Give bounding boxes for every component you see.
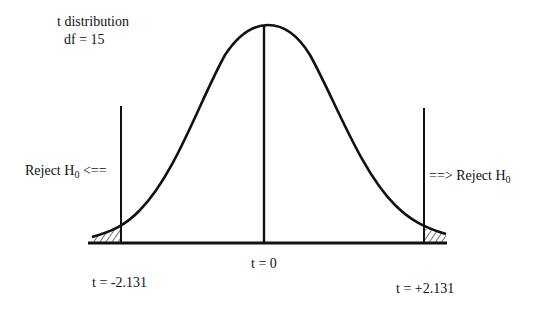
center-value-label: t = 0: [251, 256, 277, 272]
df-label: df = 15: [64, 32, 105, 48]
reject-left-arrow: <==: [79, 163, 106, 178]
left-critical-value-label: t = -2.131: [92, 275, 147, 291]
reject-right-text: Reject H: [456, 168, 505, 183]
reject-right-subscript: 0: [506, 174, 511, 185]
density-curve: [92, 25, 446, 237]
t-distribution-diagram: t distribution df = 15 Reject H0 <== ==>…: [0, 0, 550, 310]
reject-left-text: Reject H: [25, 163, 74, 178]
right-critical-value-label: t = +2.131: [396, 281, 454, 297]
reject-right-label: ==> Reject H0: [429, 168, 511, 185]
reject-left-label: Reject H0 <==: [25, 163, 107, 180]
chart-title: t distribution: [57, 14, 129, 30]
reject-right-arrow: ==>: [429, 168, 456, 183]
reject-left-subscript: 0: [74, 169, 79, 180]
